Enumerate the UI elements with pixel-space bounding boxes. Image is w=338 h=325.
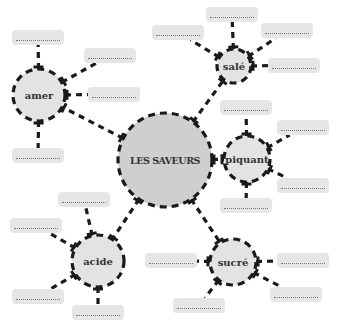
dotted-line <box>62 202 106 203</box>
answer-box-sucre-3[interactable] <box>173 298 225 313</box>
link-piquant-box-1 <box>267 135 290 148</box>
link-acide-box-0 <box>86 207 93 236</box>
dotted-line <box>274 297 318 298</box>
answer-box-sale-1[interactable] <box>206 7 258 22</box>
answer-box-sucre-2[interactable] <box>270 287 322 302</box>
answer-box-sucre-1[interactable] <box>277 253 329 268</box>
link-amer-box-1 <box>62 63 97 82</box>
answer-box-sale-2[interactable] <box>261 23 313 38</box>
dotted-line <box>156 35 200 36</box>
node-label-sale: salé <box>223 61 245 72</box>
answer-box-piquant-3[interactable] <box>220 198 272 213</box>
link-center-amer <box>62 107 123 139</box>
link-sale-box-1 <box>232 22 233 49</box>
dotted-line <box>16 40 60 41</box>
dotted-line <box>224 110 268 111</box>
nodes <box>13 49 270 287</box>
answer-box-sale-0[interactable] <box>152 25 204 40</box>
answer-box-acide-0[interactable] <box>58 192 110 207</box>
dotted-line <box>281 188 325 189</box>
answer-box-piquant-1[interactable] <box>277 120 329 135</box>
node-label-sucre: sucré <box>218 257 249 268</box>
dotted-line <box>272 68 316 69</box>
answer-box-acide-2[interactable] <box>12 289 64 304</box>
dotted-line <box>177 308 221 309</box>
dotted-line <box>14 228 58 229</box>
dotted-line <box>224 208 268 209</box>
node-label-amer: amer <box>25 90 54 101</box>
dotted-line <box>265 33 309 34</box>
dotted-line <box>88 58 132 59</box>
answer-box-sale-3[interactable] <box>268 58 320 73</box>
link-sale-box-0 <box>191 40 220 57</box>
dotted-line <box>210 17 254 18</box>
link-sucre-box-2 <box>253 273 281 287</box>
dotted-line <box>92 97 136 98</box>
answer-box-amer-0[interactable] <box>12 30 64 45</box>
answer-box-amer-2[interactable] <box>88 87 140 102</box>
answer-box-amer-1[interactable] <box>84 48 136 63</box>
node-label-acide: acide <box>83 256 113 267</box>
node-label-piquant: piquant <box>225 154 268 165</box>
center-label: LES SAVEURS <box>130 155 200 166</box>
link-center-sucre <box>191 199 220 243</box>
answer-box-amer-3[interactable] <box>12 148 64 163</box>
link-center-sale <box>193 80 224 122</box>
dotted-line <box>16 299 60 300</box>
link-acide-box-1 <box>49 233 75 248</box>
answer-box-acide-1[interactable] <box>10 218 62 233</box>
link-center-acide <box>112 199 139 239</box>
link-sale-box-2 <box>248 38 276 57</box>
dotted-line <box>281 130 325 131</box>
link-acide-box-2 <box>51 274 76 289</box>
dotted-line <box>149 263 193 264</box>
dotted-line <box>76 315 120 316</box>
dotted-line <box>281 263 325 264</box>
dotted-line <box>16 158 60 159</box>
answer-box-sucre-0[interactable] <box>145 253 197 268</box>
answer-box-piquant-0[interactable] <box>220 100 272 115</box>
answer-box-acide-3[interactable] <box>72 305 124 320</box>
answer-box-piquant-2[interactable] <box>277 178 329 193</box>
link-cap-acide-0 <box>87 233 97 235</box>
